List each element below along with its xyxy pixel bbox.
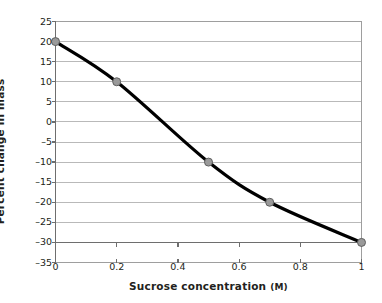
x-axis-tick-label: 1: [342, 262, 382, 272]
x-axis-title-unit: (M): [270, 282, 288, 292]
y-axis-tick-label: 25: [18, 17, 52, 27]
data-point-marker: [205, 158, 213, 166]
x-axis-tick-labels: 00.20.40.60.81: [0, 262, 382, 278]
x-axis-title-text: Sucrose concentration: [129, 280, 266, 292]
x-axis: [56, 242, 362, 262]
data-point-marker: [113, 78, 121, 86]
x-axis-tick-label: 0: [36, 262, 76, 272]
x-axis-tick-label: 0.8: [280, 262, 320, 272]
data-point-marker: [266, 198, 274, 206]
data-point-marker: [52, 38, 60, 46]
x-axis-tick-label: 0.2: [97, 262, 137, 272]
y-axis-tick-label: –10: [18, 157, 52, 167]
gridlines: [56, 22, 362, 263]
y-axis-tick-labels: 2520151050–5–10–15–20–25–30–35: [0, 0, 52, 303]
chart-container: Percent change in mass 2520151050–5–10–1…: [0, 0, 382, 303]
x-axis-title: Sucrose concentration (M): [55, 280, 362, 292]
y-axis-tick-label: –5: [18, 137, 52, 147]
x-axis-tick-label: 0.6: [219, 262, 259, 272]
y-axis: [52, 22, 56, 263]
y-axis-tick-label: 5: [18, 97, 52, 107]
y-axis-tick-label: 15: [18, 57, 52, 67]
y-axis-tick-label: –20: [18, 197, 52, 207]
y-axis-tick-label: –25: [18, 217, 52, 227]
y-axis-tick-label: 20: [18, 37, 52, 47]
y-axis-tick-label: 10: [18, 77, 52, 87]
data-point-marker: [358, 238, 366, 246]
y-axis-tick-label: 0: [18, 117, 52, 127]
plot-area: [0, 0, 382, 303]
x-axis-tick-label: 0.4: [158, 262, 198, 272]
y-axis-tick-label: –15: [18, 177, 52, 187]
y-axis-tick-label: –30: [18, 237, 52, 247]
